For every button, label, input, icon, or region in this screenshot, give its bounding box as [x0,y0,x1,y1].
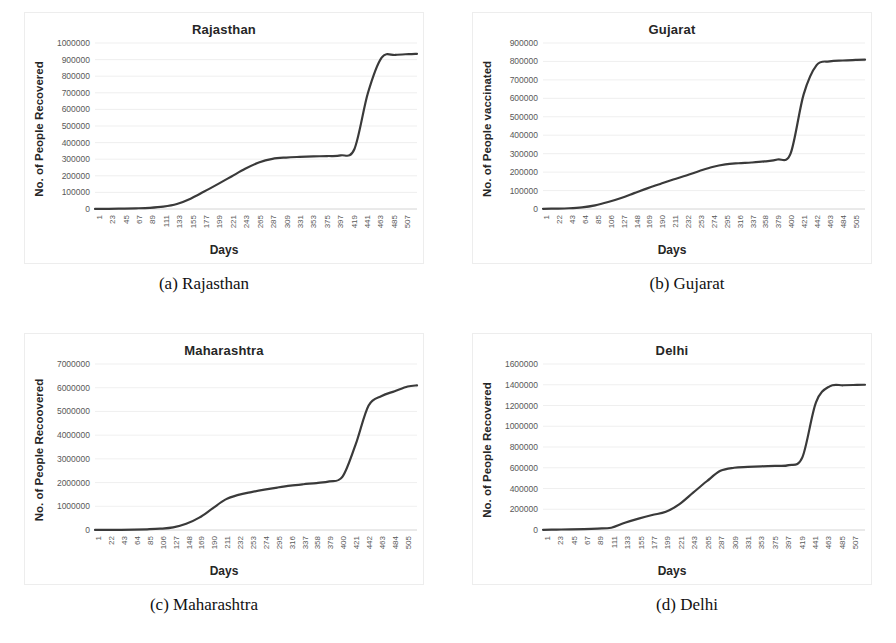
svg-text:111: 111 [610,535,619,548]
svg-text:211: 211 [671,214,680,227]
svg-text:169: 169 [645,214,654,228]
svg-text:133: 133 [175,214,184,228]
svg-text:1: 1 [542,214,551,219]
svg-text:89: 89 [596,535,605,544]
svg-text:463: 463 [376,214,385,228]
svg-text:1000000: 1000000 [505,421,538,431]
svg-text:1: 1 [543,535,552,540]
svg-text:43: 43 [120,535,129,544]
svg-text:800000: 800000 [62,71,91,81]
svg-text:1400000: 1400000 [505,380,538,390]
svg-text:463: 463 [378,535,387,549]
svg-text:600000: 600000 [62,104,91,114]
panel-caption: (d) Delhi [656,595,718,615]
svg-text:3000000: 3000000 [57,454,90,464]
svg-text:1000000: 1000000 [57,501,90,511]
svg-text:243: 243 [690,535,699,549]
svg-text:127: 127 [620,214,629,228]
svg-text:316: 316 [736,214,745,228]
svg-text:64: 64 [581,214,590,223]
chart-delhi: Delhi No. of People Recovered 0200000400… [472,333,872,585]
svg-text:379: 379 [326,535,335,549]
svg-text:800000: 800000 [510,442,539,452]
figure-panel-c: Maharashtra No. of People Recoovered 010… [0,321,448,643]
svg-text:463: 463 [826,214,835,228]
chart-maharashtra: Maharashtra No. of People Recoovered 010… [24,333,424,585]
svg-text:23: 23 [108,214,117,223]
svg-text:177: 177 [650,535,659,549]
svg-text:85: 85 [146,535,155,544]
svg-text:331: 331 [296,214,305,228]
svg-text:353: 353 [757,535,766,549]
svg-text:507: 507 [851,535,860,549]
svg-text:133: 133 [623,535,632,549]
figure-panel-d: Delhi No. of People Recovered 0200000400… [448,321,896,643]
svg-text:485: 485 [838,535,847,549]
svg-text:200000: 200000 [510,167,539,177]
svg-text:353: 353 [309,214,318,228]
plot-area: 0100000200000300000400000500000600000700… [473,13,873,265]
x-axis-label: Days [473,243,871,257]
svg-text:295: 295 [723,214,732,228]
svg-text:190: 190 [658,214,667,228]
svg-text:375: 375 [323,214,332,228]
svg-text:700000: 700000 [510,75,539,85]
svg-text:507: 507 [403,214,412,228]
svg-text:500000: 500000 [62,121,91,131]
svg-text:300000: 300000 [62,154,91,164]
x-axis-label: Days [25,564,423,578]
svg-text:1600000: 1600000 [505,359,538,369]
svg-text:295: 295 [275,535,284,549]
svg-text:45: 45 [122,214,131,223]
figure-panel-a: Rajasthan No. of People Recovered 010000… [0,0,448,321]
svg-text:400000: 400000 [510,130,539,140]
svg-text:0: 0 [533,204,538,214]
panel-caption: (a) Rajasthan [159,274,249,294]
svg-text:505: 505 [404,535,413,549]
svg-text:442: 442 [813,214,822,228]
svg-text:148: 148 [185,535,194,549]
svg-text:5000000: 5000000 [57,406,90,416]
plot-area: 0200000400000600000800000100000012000001… [473,334,873,586]
svg-text:22: 22 [107,535,116,544]
svg-text:148: 148 [633,214,642,228]
svg-text:505: 505 [852,214,861,228]
plot-area: 0100000020000003000000400000050000006000… [25,334,425,586]
figure-grid: Rajasthan No. of People Recovered 010000… [0,0,896,643]
svg-text:253: 253 [249,535,258,549]
svg-text:43: 43 [568,214,577,223]
svg-text:200000: 200000 [510,504,539,514]
chart-gujarat: Gujarat No. of People vaccinated 0100000… [472,12,872,264]
svg-text:337: 337 [749,214,758,228]
chart-rajasthan: Rajasthan No. of People Recovered 010000… [24,12,424,264]
svg-text:243: 243 [242,214,251,228]
svg-text:64: 64 [133,535,142,544]
svg-text:89: 89 [148,214,157,223]
svg-text:0: 0 [85,525,90,535]
svg-text:375: 375 [771,535,780,549]
svg-text:900000: 900000 [62,55,91,65]
svg-text:309: 309 [731,535,740,549]
svg-text:400: 400 [787,214,796,228]
x-axis-label: Days [473,564,871,578]
svg-text:600000: 600000 [510,463,539,473]
svg-text:1: 1 [95,214,104,219]
svg-text:155: 155 [189,214,198,228]
svg-text:211: 211 [223,535,232,548]
svg-text:300000: 300000 [510,149,539,159]
svg-text:274: 274 [262,535,271,549]
svg-text:2000000: 2000000 [57,478,90,488]
svg-text:6000000: 6000000 [57,383,90,393]
svg-text:421: 421 [352,535,361,549]
panel-caption: (c) Maharashtra [150,595,258,615]
svg-text:199: 199 [663,535,672,549]
svg-text:800000: 800000 [510,56,539,66]
svg-text:485: 485 [390,214,399,228]
svg-text:400000: 400000 [510,484,539,494]
svg-text:397: 397 [784,535,793,549]
svg-text:358: 358 [761,214,770,228]
svg-text:900000: 900000 [510,38,539,48]
svg-text:379: 379 [774,214,783,228]
svg-text:441: 441 [363,214,372,228]
svg-text:199: 199 [215,214,224,228]
